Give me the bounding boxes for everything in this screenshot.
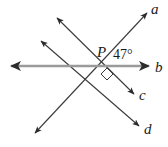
line-b-label: b bbox=[155, 59, 163, 75]
line-d-label: d bbox=[144, 121, 152, 137]
angle-measure-label: 47° bbox=[113, 47, 133, 62]
line-a-segment bbox=[35, 13, 147, 133]
line-c-label: c bbox=[139, 87, 146, 103]
line-a-label: a bbox=[151, 1, 159, 17]
geometry-canvas: P 47° a b c d bbox=[0, 0, 168, 147]
right-angle-marker bbox=[101, 68, 113, 80]
geometry-diagram: P 47° a b c d bbox=[0, 0, 168, 147]
point-p-label: P bbox=[96, 44, 106, 60]
